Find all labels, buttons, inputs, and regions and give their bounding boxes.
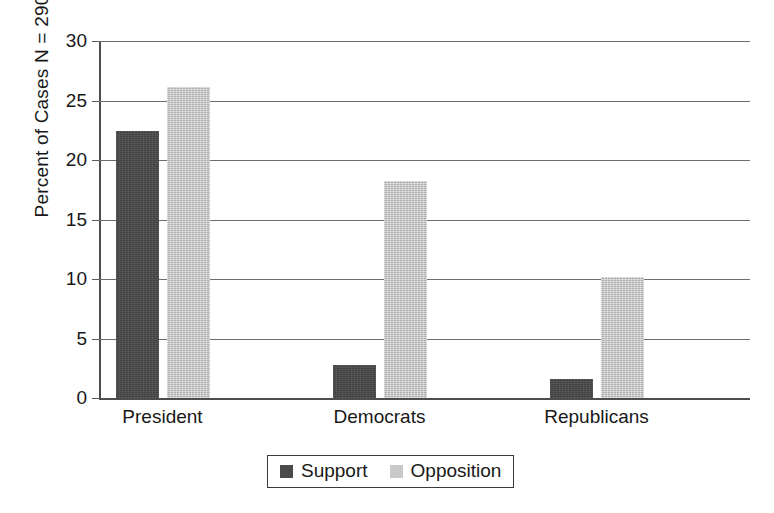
y-axis-tick bbox=[92, 160, 99, 161]
y-tick-label: 25 bbox=[66, 90, 87, 112]
bar-chart-figure: Percent of Cases N = 290 051015202530 Pr… bbox=[0, 0, 774, 513]
y-tick-label: 20 bbox=[66, 149, 87, 171]
bar-support-democrats bbox=[333, 365, 376, 398]
x-axis-line bbox=[99, 398, 750, 400]
gridline bbox=[99, 41, 750, 42]
y-axis-tick bbox=[92, 220, 99, 221]
y-tick-label: 15 bbox=[66, 209, 87, 231]
legend-item-support: Support bbox=[280, 460, 368, 482]
x-tick-label-president: President bbox=[83, 406, 243, 428]
bar-opposition-democrats bbox=[384, 181, 427, 398]
y-axis-tick bbox=[92, 398, 99, 399]
y-axis-title: Percent of Cases N = 290 bbox=[31, 0, 53, 256]
x-tick-label-republicans: Republicans bbox=[517, 406, 677, 428]
legend-label-opposition: Opposition bbox=[411, 460, 502, 482]
legend-label-support: Support bbox=[301, 460, 368, 482]
legend-item-opposition: Opposition bbox=[390, 460, 502, 482]
chart-legend: Support Opposition bbox=[267, 455, 514, 488]
bar-opposition-president bbox=[167, 87, 210, 398]
legend-swatch-opposition-icon bbox=[390, 465, 403, 478]
y-axis-tick bbox=[92, 41, 99, 42]
bar-opposition-republicans bbox=[601, 277, 644, 398]
bar-support-republicans bbox=[550, 379, 593, 398]
y-tick-label: 5 bbox=[76, 328, 87, 350]
x-tick-label-democrats: Democrats bbox=[300, 406, 460, 428]
legend-swatch-support-icon bbox=[280, 465, 293, 478]
y-axis-tick bbox=[92, 279, 99, 280]
y-tick-label: 10 bbox=[66, 268, 87, 290]
y-axis-tick bbox=[92, 339, 99, 340]
bar-support-president bbox=[116, 131, 159, 398]
y-axis-tick bbox=[92, 101, 99, 102]
plot-area: 051015202530 bbox=[99, 41, 750, 400]
y-tick-label: 30 bbox=[66, 30, 87, 52]
y-axis-line bbox=[99, 41, 101, 400]
